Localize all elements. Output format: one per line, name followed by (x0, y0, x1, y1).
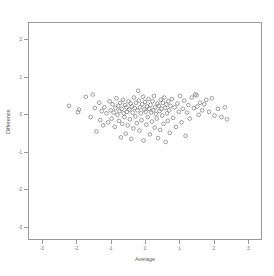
x-tick-mark (76, 240, 77, 244)
data-point (116, 113, 120, 117)
data-point (103, 105, 107, 109)
data-point (138, 129, 142, 133)
data-point (190, 96, 194, 100)
data-point (173, 105, 177, 109)
data-point (118, 101, 122, 105)
data-point (67, 104, 71, 108)
data-point (158, 128, 162, 132)
y-tick-mark (24, 77, 28, 78)
data-point (167, 108, 171, 112)
data-point (216, 107, 220, 111)
data-point (128, 118, 132, 122)
scatter-plot-figure: -3-2-10123 -3-2-1012 Average Difference (0, 0, 274, 276)
data-point (119, 136, 123, 140)
data-point (207, 110, 211, 114)
x-tick-label: -2 (74, 246, 78, 251)
data-point (197, 113, 201, 117)
x-tick-label: 1 (178, 246, 181, 251)
data-point (129, 137, 133, 141)
x-tick-label: -3 (40, 246, 44, 251)
y-tick-label: 2 (12, 36, 22, 41)
y-tick-label: -3 (12, 224, 22, 229)
x-tick-label: 2 (213, 246, 216, 251)
data-point (140, 118, 144, 122)
data-point (127, 108, 131, 112)
data-point (93, 106, 97, 110)
data-point (176, 102, 180, 106)
data-point (141, 95, 145, 99)
data-point (168, 131, 172, 135)
data-point (146, 115, 150, 119)
data-point (156, 136, 160, 140)
data-point (131, 127, 135, 131)
data-point (123, 115, 127, 119)
data-point (188, 117, 192, 121)
data-point (152, 94, 156, 98)
data-point (127, 99, 131, 103)
data-point (105, 111, 109, 115)
data-point (158, 109, 162, 113)
data-point (101, 124, 105, 128)
data-points-layer (0, 0, 274, 276)
data-point (185, 111, 189, 115)
data-point (164, 140, 168, 144)
x-tick-label: 0 (144, 246, 147, 251)
data-point (162, 122, 166, 126)
data-point (149, 111, 153, 115)
data-point (171, 116, 175, 120)
data-point (160, 114, 164, 118)
data-point (149, 103, 153, 107)
data-point (220, 115, 224, 119)
x-tick-mark (145, 240, 146, 244)
data-point (108, 99, 112, 103)
data-point (121, 98, 125, 102)
data-point (202, 102, 206, 106)
data-point (113, 125, 117, 129)
data-point (170, 97, 174, 101)
data-point (115, 96, 119, 100)
data-point (145, 123, 149, 127)
data-point (225, 118, 229, 122)
x-tick-mark (248, 240, 249, 244)
data-point (111, 102, 115, 106)
data-point (195, 105, 199, 109)
y-axis-label: Difference (5, 122, 11, 134)
data-point (155, 117, 159, 121)
data-point (169, 104, 173, 108)
data-point (137, 99, 141, 103)
data-point (106, 121, 110, 125)
data-point (223, 105, 227, 109)
data-point (167, 99, 171, 103)
data-point (184, 134, 188, 138)
data-point (126, 124, 130, 128)
data-point (136, 89, 140, 93)
data-point (120, 122, 124, 126)
data-point (95, 130, 99, 134)
x-tick-label: -1 (109, 246, 113, 251)
data-point (112, 111, 116, 115)
x-tick-mark (111, 240, 112, 244)
y-tick-mark (24, 189, 28, 190)
y-tick-mark (24, 114, 28, 115)
data-point (91, 93, 95, 97)
data-point (125, 110, 129, 114)
data-point (118, 109, 122, 113)
data-point (187, 103, 191, 107)
y-tick-mark (24, 39, 28, 40)
data-point (100, 109, 104, 113)
data-point (110, 117, 114, 121)
y-tick-mark (24, 152, 28, 153)
x-tick-label: 3 (247, 246, 250, 251)
data-point (182, 99, 186, 103)
data-point (148, 133, 152, 137)
y-tick-label: 1 (12, 74, 22, 79)
data-point (136, 108, 140, 112)
data-point (134, 114, 138, 118)
x-tick-mark (42, 240, 43, 244)
data-point (213, 114, 217, 118)
data-point (153, 126, 157, 130)
data-point (135, 121, 139, 125)
data-point (204, 98, 208, 102)
y-tick-mark (24, 227, 28, 228)
data-point (166, 119, 170, 123)
